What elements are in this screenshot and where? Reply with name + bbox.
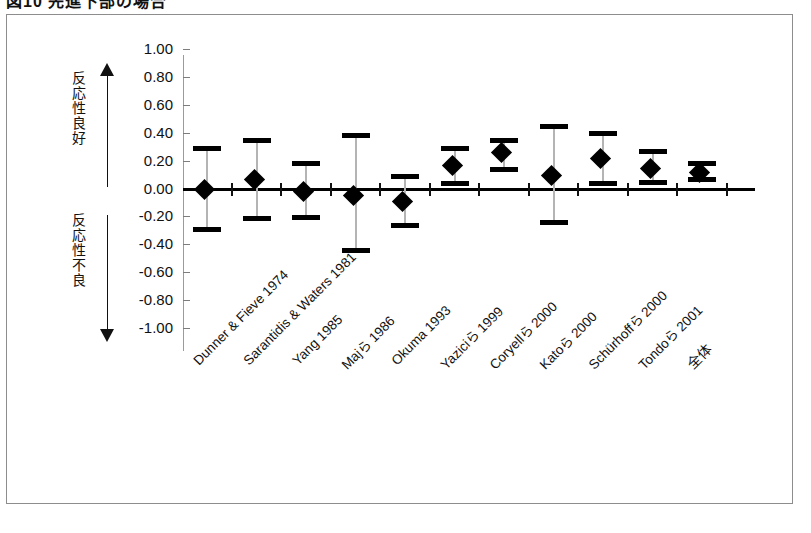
confidence-interval-upper-cap xyxy=(639,149,667,154)
poor-response-label-char-4: 良 xyxy=(69,273,89,288)
confidence-interval-upper-cap xyxy=(243,138,271,143)
confidence-interval-upper-cap xyxy=(342,133,370,138)
y-axis-tick-label: 0.00 xyxy=(111,180,173,197)
confidence-interval-upper-cap xyxy=(292,161,320,166)
plot-area xyxy=(185,55,750,351)
confidence-interval-lower-cap xyxy=(292,215,320,220)
y-axis-tick-label: 1.00 xyxy=(111,40,173,57)
y-axis-tick-label: 0.40 xyxy=(111,124,173,141)
x-axis-tick xyxy=(330,183,332,196)
x-axis-tick xyxy=(676,183,678,196)
confidence-interval-lower-cap xyxy=(639,180,667,185)
good-response-label-char-3: 良 xyxy=(69,116,89,131)
x-axis-tick xyxy=(478,183,480,196)
effect-size-diamond-marker xyxy=(392,191,413,212)
figure-plate: 反応性良好 反応性不良 1.000.800.600.400.200.00-0.2… xyxy=(6,14,793,504)
effect-size-diamond-marker xyxy=(441,155,462,176)
confidence-interval-upper-cap xyxy=(441,146,469,151)
figure-caption: 図10 先進下部の場合 xyxy=(6,0,167,10)
poor-response-label-char-3: 不 xyxy=(69,258,89,273)
y-axis-tick-label: -1.00 xyxy=(111,319,173,336)
x-axis-tick xyxy=(726,183,728,196)
confidence-interval-upper-cap xyxy=(589,131,617,136)
confidence-interval-upper-cap xyxy=(193,146,221,151)
y-axis-tick-label: 0.80 xyxy=(111,68,173,85)
y-axis-tick-label: -0.60 xyxy=(111,263,173,280)
effect-size-diamond-marker xyxy=(194,178,215,199)
x-axis-tick xyxy=(231,183,233,196)
up-arrow-icon xyxy=(107,71,108,187)
x-axis-tick xyxy=(528,183,530,196)
poor-response-label-char-0: 反 xyxy=(69,213,89,228)
x-axis-tick xyxy=(280,183,282,196)
effect-size-diamond-marker xyxy=(293,181,314,202)
confidence-interval-lower-cap xyxy=(490,167,518,172)
poor-response-label-char-1: 応 xyxy=(69,228,89,243)
effect-size-diamond-marker xyxy=(243,169,264,190)
y-axis-tick-label: -0.40 xyxy=(111,235,173,252)
effect-size-diamond-marker xyxy=(639,157,660,178)
down-arrow-icon xyxy=(107,215,108,331)
confidence-interval-lower-cap xyxy=(441,181,469,186)
axis-label-poor-response: 反応性不良 xyxy=(69,213,89,288)
confidence-interval-lower-cap xyxy=(193,227,221,232)
y-axis-line xyxy=(183,55,184,351)
y-axis-tick-label: -0.80 xyxy=(111,291,173,308)
confidence-interval-upper-cap xyxy=(540,124,568,129)
effect-size-diamond-marker xyxy=(342,185,363,206)
good-response-label-char-0: 反 xyxy=(69,71,89,86)
confidence-interval-upper-cap xyxy=(490,138,518,143)
y-axis-tick-label: 0.60 xyxy=(111,96,173,113)
effect-size-diamond-marker xyxy=(590,148,611,169)
good-response-label-char-2: 性 xyxy=(69,101,89,116)
x-axis-tick xyxy=(577,183,579,196)
x-axis-category-labels: Dunner & Fieve 1974Sarantidis & Waters 1… xyxy=(7,353,811,483)
confidence-interval-upper-cap xyxy=(391,174,419,179)
axis-label-good-response: 反応性良好 xyxy=(69,71,89,146)
y-axis-tick-label: 0.20 xyxy=(111,152,173,169)
y-axis-tick xyxy=(183,49,190,50)
confidence-interval-lower-cap xyxy=(391,223,419,228)
good-response-label-char-1: 応 xyxy=(69,86,89,101)
x-axis-tick xyxy=(627,183,629,196)
x-axis-tick xyxy=(379,183,381,196)
confidence-interval-lower-cap xyxy=(243,216,271,221)
confidence-interval-lower-cap xyxy=(589,181,617,186)
good-response-label-char-4: 好 xyxy=(69,131,89,146)
y-axis-tick-label: -0.20 xyxy=(111,207,173,224)
effect-size-diamond-marker xyxy=(491,142,512,163)
effect-size-diamond-marker xyxy=(540,164,561,185)
x-axis-tick xyxy=(429,183,431,196)
confidence-interval-lower-cap xyxy=(540,220,568,225)
poor-response-label-char-2: 性 xyxy=(69,243,89,258)
